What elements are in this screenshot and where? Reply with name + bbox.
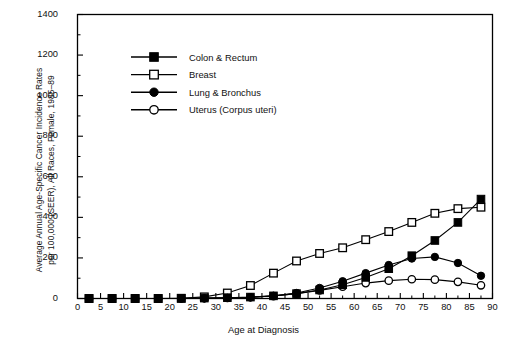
series-line: [89, 207, 481, 298]
data-point-filled-square: [293, 290, 301, 298]
data-point-filled-square: [316, 286, 324, 294]
data-point-open-square: [270, 269, 278, 277]
data-point-filled-square: [431, 237, 439, 245]
data-point-filled-square: [177, 294, 185, 302]
data-point-open-circle: [150, 106, 158, 114]
data-point-filled-square: [224, 294, 232, 302]
data-point-open-square: [247, 282, 255, 290]
data-point-open-circle: [408, 276, 415, 283]
series-line: [89, 199, 481, 298]
series-breast: [85, 203, 485, 302]
data-point-filled-circle: [150, 88, 158, 96]
plot-area: Colon & RectumBreastLung & BronchusUteru…: [0, 0, 509, 352]
data-point-filled-square: [477, 195, 485, 203]
data-point-open-square: [408, 219, 416, 227]
data-point-filled-square: [339, 281, 347, 289]
data-point-filled-circle: [477, 272, 484, 279]
data-point-filled-square: [131, 295, 139, 303]
series-line: [89, 257, 481, 299]
legend-item-breast[interactable]: Breast: [131, 69, 216, 80]
data-point-open-square: [150, 70, 159, 79]
data-point-open-square: [293, 257, 301, 265]
data-point-open-circle: [477, 282, 484, 289]
legend-label: Uterus (Corpus uteri): [189, 104, 277, 115]
data-point-open-square: [454, 205, 462, 213]
data-point-open-circle: [385, 277, 392, 284]
data-point-filled-square: [85, 295, 93, 303]
data-point-filled-square: [150, 53, 159, 62]
legend: Colon & RectumBreastLung & BronchusUteru…: [131, 52, 277, 116]
data-point-filled-circle: [431, 253, 438, 260]
legend-label: Colon & Rectum: [189, 52, 257, 63]
data-point-open-circle: [454, 278, 461, 285]
data-point-open-circle: [431, 276, 438, 283]
data-point-open-square: [477, 203, 485, 211]
legend-label: Breast: [189, 69, 216, 80]
legend-item-colon-rectum[interactable]: Colon & Rectum: [131, 52, 257, 63]
legend-item-uterus-corpus-uteri[interactable]: Uterus (Corpus uteri): [131, 104, 277, 115]
data-point-filled-square: [108, 295, 116, 303]
data-point-filled-square: [362, 274, 370, 282]
data-point-filled-square: [454, 219, 462, 227]
data-point-filled-square: [385, 265, 393, 273]
data-point-open-square: [362, 236, 370, 244]
data-point-open-square: [385, 228, 393, 236]
legend-label: Lung & Bronchus: [189, 87, 261, 98]
data-point-open-square: [339, 244, 347, 252]
data-point-open-square: [316, 250, 324, 258]
data-point-filled-square: [247, 293, 255, 301]
data-point-filled-square: [201, 294, 209, 302]
data-point-filled-square: [154, 295, 162, 303]
legend-item-lung-bronchus[interactable]: Lung & Bronchus: [131, 87, 261, 98]
figure: Average Annual Age-Specific Cancer Incid…: [0, 0, 509, 352]
series-layer: [85, 195, 485, 302]
series-colon-rectum: [85, 195, 485, 302]
data-point-filled-square: [270, 292, 278, 300]
data-point-filled-circle: [454, 259, 461, 266]
data-point-filled-square: [408, 252, 416, 260]
data-point-open-square: [431, 210, 439, 218]
